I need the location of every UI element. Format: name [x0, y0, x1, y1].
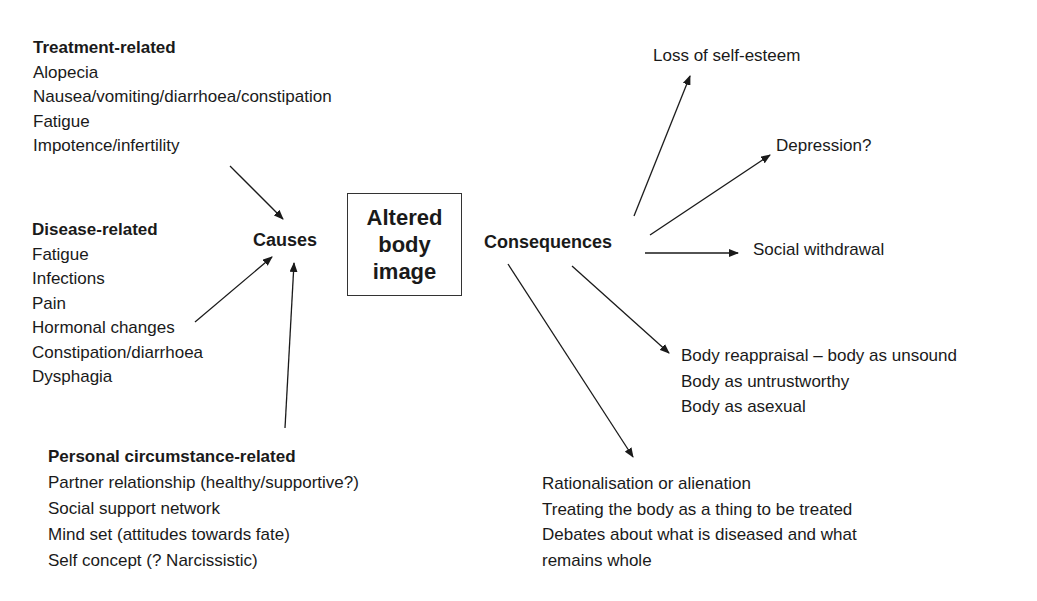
- arrow-disease-to-causes: [195, 257, 272, 322]
- list-item: Self concept (? Narcissistic): [48, 548, 359, 574]
- list-item: Alopecia: [33, 61, 332, 86]
- consequences-label: Consequences: [484, 232, 612, 253]
- list-item: Constipation/diarrhoea: [32, 341, 203, 366]
- list-item: Body as asexual: [681, 394, 957, 420]
- list-item: Debates about what is diseased and what: [542, 522, 857, 548]
- treatment-related-group: Treatment-related Alopecia Nausea/vomiti…: [33, 36, 332, 159]
- social-withdrawal: Social withdrawal: [753, 240, 884, 260]
- arrow-treatment-to-causes: [230, 166, 283, 219]
- list-item: Body as untrustworthy: [681, 369, 957, 395]
- list-item: Hormonal changes: [32, 316, 203, 341]
- center-line: image: [373, 258, 437, 285]
- body-reappraisal-group: Body reappraisal – body as unsound Body …: [681, 343, 957, 420]
- treatment-heading: Treatment-related: [33, 36, 332, 61]
- list-item: Treating the body as a thing to be treat…: [542, 497, 857, 523]
- loss-of-self-esteem: Loss of self-esteem: [653, 46, 800, 66]
- list-item: remains whole: [542, 548, 857, 574]
- disease-related-group: Disease-related Fatigue Infections Pain …: [32, 218, 203, 390]
- list-item: Partner relationship (healthy/supportive…: [48, 470, 359, 496]
- depression: Depression?: [776, 136, 871, 156]
- arrow-personal-to-causes: [285, 263, 294, 428]
- list-item: Body reappraisal – body as unsound: [681, 343, 957, 369]
- center-line: body: [378, 231, 431, 258]
- list-item: Dysphagia: [32, 365, 203, 390]
- arrow-to-depression: [650, 155, 770, 235]
- disease-heading: Disease-related: [32, 218, 203, 243]
- arrow-to-reappraisal: [572, 266, 669, 353]
- list-item: Infections: [32, 267, 203, 292]
- list-item: Rationalisation or alienation: [542, 471, 857, 497]
- personal-heading: Personal circumstance-related: [48, 444, 359, 470]
- list-item: Fatigue: [32, 243, 203, 268]
- causes-label: Causes: [253, 230, 317, 251]
- altered-body-image-box: Altered body image: [347, 193, 462, 296]
- list-item: Nausea/vomiting/diarrhoea/constipation: [33, 85, 332, 110]
- list-item: Pain: [32, 292, 203, 317]
- personal-related-group: Personal circumstance-related Partner re…: [48, 444, 359, 574]
- arrow-to-self-esteem: [634, 76, 690, 216]
- arrow-to-rationalisation: [508, 264, 633, 457]
- list-item: Impotence/infertility: [33, 134, 332, 159]
- rationalisation-group: Rationalisation or alienation Treating t…: [542, 471, 857, 573]
- center-line: Altered: [367, 204, 443, 231]
- list-item: Social support network: [48, 496, 359, 522]
- list-item: Mind set (attitudes towards fate): [48, 522, 359, 548]
- list-item: Fatigue: [33, 110, 332, 135]
